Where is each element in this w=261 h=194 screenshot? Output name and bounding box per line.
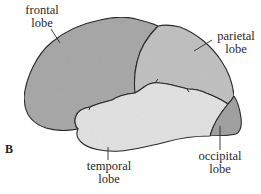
parietal-lobe-label: parietal lobe xyxy=(213,30,259,56)
temporal-label-line2: lobe xyxy=(85,173,133,186)
frontal-lobe-label: frontal lobe xyxy=(19,4,65,30)
parietal-label-line2: lobe xyxy=(213,43,259,56)
brain-lobes-figure: frontal lobe parietal lobe temporal lobe… xyxy=(0,0,261,194)
occipital-label-line2: lobe xyxy=(195,163,245,176)
panel-label: B xyxy=(5,142,13,157)
temporal-lobe-label: temporal lobe xyxy=(85,160,133,186)
frontal-label-line2: lobe xyxy=(19,17,65,30)
occipital-lobe-label: occipital lobe xyxy=(195,150,245,176)
